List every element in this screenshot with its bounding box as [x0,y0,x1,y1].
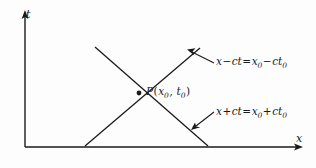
eq-upper-lhs-var2: ct [232,55,242,67]
eq-lower-rhs-subscript2: 0 [282,111,287,120]
eq-upper-lhs-operator: − [222,55,232,67]
equation-label-upper: x−ct=x0−ct0 [216,56,287,70]
leader-line-lower [196,112,214,126]
time-axis [22,10,29,147]
time-axis-label: t [26,9,30,20]
eq-lower-lhs-var2: ct [232,105,242,117]
point-p-label: P(x0, t0) [146,86,191,100]
point-p-comma: , [169,85,177,97]
eq-lower-lhs-operator: + [222,105,232,117]
point-p-close-paren: ) [186,85,191,97]
eq-upper-rhs-var2: ct [272,55,282,67]
eq-upper-equals: = [242,55,252,67]
point-p-t-subscript: 0 [181,91,186,100]
leader-arrowhead-upper [187,48,196,55]
diagram-canvas [0,0,316,168]
eq-lower-equals: = [242,105,252,117]
leader-line-upper [192,52,214,63]
eq-upper-rhs-subscript2: 0 [282,61,287,70]
eq-lower-rhs-operator: + [262,105,272,117]
space-axis-label: x [296,133,302,144]
eq-upper-rhs-operator: − [262,55,272,67]
leader-arrow-lower [191,112,214,130]
spacetime-diagram: t x P(x0, t0) x−ct=x0−ct0 x+ct=x0+ct0 [0,0,316,168]
eq-lower-rhs-var2: ct [272,105,282,117]
point-p-marker [137,91,142,96]
equation-label-lower: x+ct=x0+ct0 [216,106,287,120]
space-axis [25,144,303,151]
